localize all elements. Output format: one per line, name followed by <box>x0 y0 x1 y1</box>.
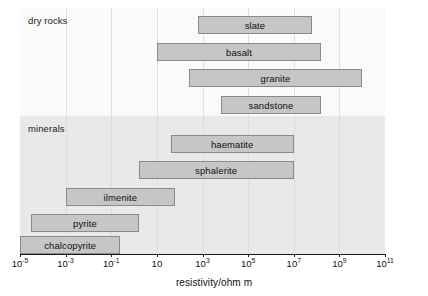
bar-ilmenite: ilmenite <box>66 188 176 206</box>
bar-chalcopyrite: chalcopyrite <box>20 236 120 254</box>
x-tick-mark <box>294 254 295 257</box>
x-tick-label: 10-1 <box>103 259 120 269</box>
x-tick-label: 1011 <box>376 259 394 269</box>
bar-granite: granite <box>189 69 362 87</box>
x-tick-mark <box>66 254 67 257</box>
gridline <box>294 116 295 254</box>
x-tick-label: 107 <box>287 259 301 269</box>
bar-slate: slate <box>198 16 312 34</box>
x-tick-label: 109 <box>332 259 346 269</box>
band-label-dry-rocks: dry rocks <box>28 15 67 26</box>
bar-label-granite: granite <box>261 73 291 84</box>
bar-label-ilmenite: ilmenite <box>104 192 138 203</box>
band-label-minerals: minerals <box>28 123 65 134</box>
bar-sandstone: sandstone <box>221 96 321 114</box>
x-tick-mark <box>111 254 112 257</box>
bar-basalt: basalt <box>157 43 321 61</box>
bar-label-chalcopyrite: chalcopyrite <box>44 240 96 251</box>
gridline <box>157 116 158 254</box>
bar-sphalerite: sphalerite <box>139 161 294 179</box>
x-tick-mark <box>157 254 158 257</box>
x-tick-label: 10-5 <box>12 259 29 269</box>
gridline <box>111 8 112 116</box>
bar-label-haematite: haematite <box>211 139 254 150</box>
x-tick-mark <box>248 254 249 257</box>
gridline <box>339 116 340 254</box>
gridline <box>339 8 340 116</box>
resistivity-range-chart: dry rocks minerals slatebasaltgranitesan… <box>0 0 428 296</box>
bar-label-pyrite: pyrite <box>73 218 97 229</box>
x-tick-mark <box>203 254 204 257</box>
x-tick-label: 10-3 <box>57 259 74 269</box>
plot-area: dry rocks minerals slatebasaltgranitesan… <box>20 8 385 254</box>
x-tick-label: 103 <box>195 259 209 269</box>
gridline <box>66 116 67 254</box>
x-axis-title: resistivity/ohm m <box>0 277 428 288</box>
gridline <box>111 116 112 254</box>
x-tick-label: 10 <box>152 259 163 269</box>
bar-pyrite: pyrite <box>31 214 138 232</box>
gridline <box>157 8 158 116</box>
bar-label-basalt: basalt <box>226 47 252 58</box>
x-tick-mark <box>339 254 340 257</box>
bar-label-slate: slate <box>245 20 266 31</box>
x-tick-mark <box>20 254 21 257</box>
x-tick-label: 105 <box>241 259 255 269</box>
bar-label-sphalerite: sphalerite <box>195 165 237 176</box>
bar-label-sandstone: sandstone <box>249 100 294 111</box>
bar-haematite: haematite <box>171 135 294 153</box>
